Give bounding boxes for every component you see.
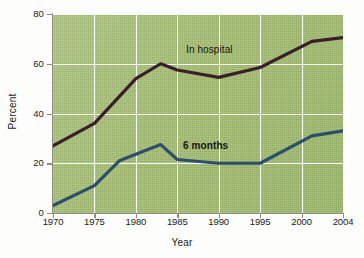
y-tick-60 <box>47 64 52 65</box>
y-axis-title: Percent <box>7 77 18 147</box>
x-tick-label-1995: 1995 <box>240 216 280 227</box>
x-axis-title: Year <box>0 237 364 248</box>
y-axis-line <box>52 13 53 214</box>
x-tick-label-1990: 1990 <box>199 216 239 227</box>
x-tick-label-1970: 1970 <box>33 216 73 227</box>
y-tick-20 <box>47 163 52 164</box>
x-axis-line <box>52 213 344 214</box>
series-label-6-months: 6 months <box>183 140 228 151</box>
y-tick-80 <box>47 14 52 15</box>
series-label-in-hospital: In hospital <box>186 44 233 55</box>
x-tick-label-1975: 1975 <box>74 216 114 227</box>
y-tick-label-60: 60 <box>16 58 44 69</box>
x-tick-label-1980: 1980 <box>116 216 156 227</box>
chart-figure: In hospital 6 months 020406080 197019751… <box>0 0 364 258</box>
y-tick-0 <box>47 213 52 214</box>
y-tick-40 <box>47 114 52 115</box>
x-tick-label-2004: 2004 <box>323 216 363 227</box>
x-tick-label-1985: 1985 <box>157 216 197 227</box>
y-tick-label-40: 40 <box>16 108 44 119</box>
y-tick-label-20: 20 <box>16 157 44 168</box>
y-tick-label-80: 80 <box>16 8 44 19</box>
x-tick-label-2000: 2000 <box>282 216 322 227</box>
